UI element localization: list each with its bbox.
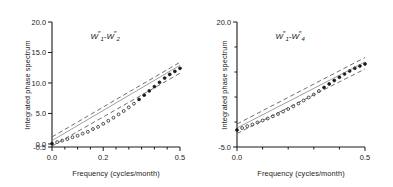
chart-panel-right: Integrated phase spectrum 20.0-5.0 0.00.… [197,0,393,187]
fit-line-left [52,65,180,140]
data-point-left [122,110,125,113]
data-point-left [107,119,110,122]
data-point-left [97,125,100,128]
figure-root: Integrated phase spectrum 20.015.010.05.… [0,0,393,187]
data-point-left [158,81,161,84]
data-point-left [173,70,176,73]
data-point-left [132,102,135,105]
data-point-right [328,83,331,86]
data-point-left [112,116,115,119]
x-ticklabel-left: 0.2 [98,153,108,162]
x-axis-ticklabels-left: 0.00.20.5 [0,153,196,163]
data-point-right [236,129,239,132]
data-point-right [241,127,244,130]
x-ticklabel-right: 0.0 [232,153,242,162]
series-label-right: W″1-W″4 [275,30,304,42]
y-ticklabel-left: 5.0 [36,109,46,118]
x-ticklabel-right: 0.5 [360,153,370,162]
data-point-right [338,76,341,79]
y-ticklabel-left: 15.0 [32,48,46,57]
x-ticklabel-left: 0.0 [47,153,57,162]
y-ticklabel-right: -5.0 [218,143,231,152]
data-point-left [143,94,146,97]
data-point-left [71,136,74,139]
confidence-bound-line-left [52,62,180,137]
data-point-left [179,67,182,70]
data-point-right [333,79,336,82]
confidence-bound-line-right [237,58,365,125]
data-point-right [261,119,264,122]
y-ticklabel-right: 20.0 [217,18,231,27]
data-point-left [76,134,79,137]
x-axis-title-left: Frequency (cycles/month) [12,169,220,178]
data-point-right [364,63,367,66]
data-point-right [282,110,285,113]
data-point-left [168,73,171,76]
x-axis-ticklabels-right: 0.00.5 [197,153,393,163]
data-point-left [138,98,141,101]
data-point-left [56,141,59,144]
y-ticklabel-left: 10.0 [32,78,46,87]
data-point-left [102,122,105,125]
confidence-bound-line-right [237,69,365,134]
data-point-left [163,77,166,80]
x-axis-title-right: Frequency (cycles/month) [197,169,393,178]
data-point-left [117,113,120,116]
fit-line-right [237,62,365,128]
y-ticklabel-left: 20.0 [32,18,46,27]
data-point-left [92,128,95,131]
data-point-right [246,125,249,128]
data-point-right [323,86,326,89]
chart-panel-left: Integrated phase spectrum 20.015.010.05.… [0,0,196,187]
data-point-left [127,106,130,109]
data-point-left [86,130,89,133]
confidence-bound-line-left [52,73,180,146]
data-point-left [153,85,156,88]
data-point-left [81,132,84,135]
series-label-left: W″1-W″2 [90,30,119,42]
y-ticklabel-left: -0.5 [33,143,46,152]
data-point-left [51,142,54,145]
x-ticklabel-left: 0.5 [175,153,185,162]
